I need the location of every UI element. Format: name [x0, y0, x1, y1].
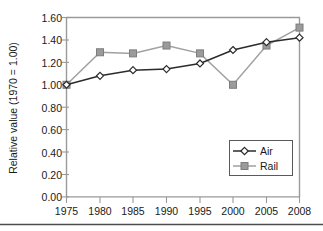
y-tick-label-1.40: 1.40	[42, 34, 63, 46]
data-point-rail-2000	[230, 81, 237, 88]
data-point-rail-1990	[163, 42, 170, 49]
data-point-air-1990	[163, 66, 170, 73]
y-tick-label-1.20: 1.20	[42, 57, 63, 69]
data-point-rail-1995	[197, 50, 204, 57]
x-tick-marks	[67, 197, 300, 203]
y-tick-label-0.00: 0.00	[42, 191, 63, 203]
plot-series-layer	[63, 24, 303, 88]
x-tick-label-2008: 2008	[288, 205, 312, 217]
chart-figure: Relative value (1970 = 1.00) 1.60 1.40 1…	[0, 0, 323, 231]
x-tick-label-1980: 1980	[88, 205, 112, 217]
data-point-air-1985	[130, 67, 137, 74]
y-tick-label-0.20: 0.20	[42, 169, 63, 181]
data-point-rail-1985	[130, 50, 137, 57]
y-tick-label-1.60: 1.60	[42, 12, 63, 24]
x-tick-label-2005: 2005	[255, 205, 279, 217]
x-tick-label-1985: 1985	[121, 205, 145, 217]
x-tick-label-1975: 1975	[55, 205, 79, 217]
x-tick-label-1995: 1995	[188, 205, 212, 217]
line-chart: Relative value (1970 = 1.00) 1.60 1.40 1…	[0, 0, 323, 231]
x-tick-label-1990: 1990	[155, 205, 179, 217]
data-point-rail-2008	[296, 24, 303, 31]
y-tick-label-1.00: 1.00	[42, 79, 63, 91]
y-tick-label-0.40: 0.40	[42, 147, 63, 159]
legend-label-air: Air	[260, 145, 273, 157]
chart-legend: Air Rail	[230, 141, 293, 176]
y-tick-label-0.60: 0.60	[42, 124, 63, 136]
y-tick-marks	[62, 18, 69, 197]
data-point-air-2008	[296, 34, 303, 41]
legend-marker-rail	[241, 163, 248, 170]
data-point-air-1980	[97, 72, 104, 79]
y-axis-title: Relative value (1970 = 1.00)	[7, 42, 19, 174]
legend-label-rail: Rail	[260, 160, 278, 172]
data-point-air-1995	[197, 60, 204, 67]
y-tick-label-0.80: 0.80	[42, 102, 63, 114]
data-point-air-2000	[230, 47, 237, 54]
x-tick-label-2000: 2000	[221, 205, 245, 217]
data-point-rail-1980	[97, 49, 104, 56]
